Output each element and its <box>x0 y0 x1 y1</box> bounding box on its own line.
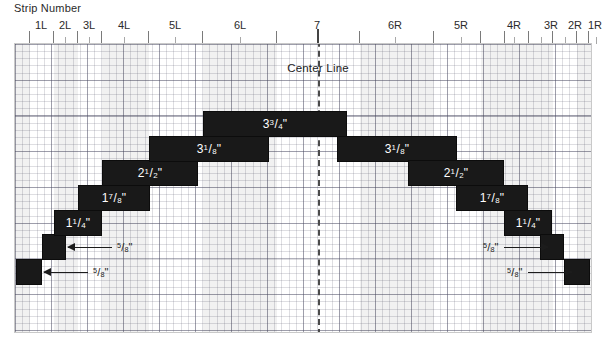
block-measure-label: 33/4" <box>263 118 288 131</box>
block-1l <box>16 259 42 285</box>
block-5r: 21/2" <box>408 160 504 186</box>
callout-measure-label: 5/8" <box>502 266 528 278</box>
ruler-label-5r: 5R <box>454 19 468 31</box>
strip-band <box>577 44 591 332</box>
callout-measure-label: 5/8" <box>112 241 138 253</box>
strip-band <box>15 44 30 332</box>
strip-band <box>54 44 78 332</box>
grid-plot-area: Center Line 11/4"17/8"21/2"31/8"33/4"31/… <box>14 43 592 333</box>
ruler-label-2l: 2L <box>59 19 71 31</box>
block-5l: 21/2" <box>102 160 198 186</box>
ruler-tick-center <box>317 29 319 44</box>
ruler-label-4l: 4L <box>118 19 130 31</box>
block-measure-label: 31/8" <box>385 143 410 156</box>
block-2l <box>42 234 66 260</box>
arrow-right-icon <box>528 272 572 273</box>
block-measure-label: 17/8" <box>480 192 505 205</box>
arrow-right-icon <box>504 247 548 248</box>
ruler-label-4r: 4R <box>507 19 521 31</box>
arrow-left-icon <box>44 272 88 273</box>
strip-band <box>360 44 434 332</box>
block-measure-label: 17/8" <box>102 192 127 205</box>
arrow-left-icon <box>68 247 112 248</box>
block-3l: 11/4" <box>54 210 102 236</box>
ruler-label-6l: 6L <box>234 19 246 31</box>
block-3r: 11/4" <box>504 210 552 236</box>
center-line-label: Center Line <box>287 62 349 74</box>
block-4l: 17/8" <box>78 185 150 211</box>
top-ruler: 1L2L3L4L5L6L76R5R4R3R2R1R <box>0 0 604 44</box>
block-measure-label: 11/4" <box>66 217 91 230</box>
ruler-label-1r: 1R <box>588 19 602 31</box>
diagram-canvas: Strip Number 1L2L3L4L5L6L76R5R4R3R2R1R C… <box>0 0 604 344</box>
block-measure-label: 31/8" <box>197 143 222 156</box>
ruler-label-3r: 3R <box>544 19 558 31</box>
block-4r: 17/8" <box>456 185 528 211</box>
callout-measure-label: 5/8" <box>478 241 504 253</box>
block-measure-label: 11/4" <box>516 217 541 230</box>
ruler-label-2r: 2R <box>568 19 582 31</box>
strip-band <box>529 44 553 332</box>
block-6l: 31/8" <box>149 136 269 162</box>
callout-2r: 5/8" <box>478 240 548 254</box>
ruler-label-5l: 5L <box>169 19 181 31</box>
ruler-label-1l: 1L <box>35 19 47 31</box>
callout-1l: 5/8" <box>44 265 114 279</box>
callout-2l: 5/8" <box>68 240 138 254</box>
block-measure-label: 21/2" <box>444 167 469 180</box>
block-measure-label: 21/2" <box>138 167 163 180</box>
center-line <box>318 43 320 333</box>
block-7: 33/4" <box>203 111 347 137</box>
ruler-tick-minor <box>596 37 597 44</box>
ruler-label-6r: 6R <box>388 19 402 31</box>
strip-band <box>203 44 277 332</box>
callout-1r: 5/8" <box>502 265 572 279</box>
callout-measure-label: 5/8" <box>88 266 114 278</box>
block-6r: 31/8" <box>337 136 457 162</box>
ruler-label-3l: 3L <box>83 19 95 31</box>
